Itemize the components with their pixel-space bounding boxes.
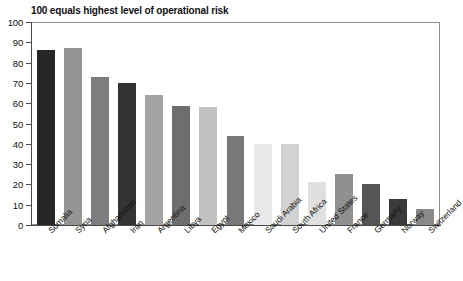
y-axis-tick-label: 100 <box>8 17 23 28</box>
y-axis-tick <box>26 184 31 185</box>
y-axis-tick-label: 60 <box>13 98 23 109</box>
x-axis-labels: SomaliaSyriaAfghanistanIranArgentinaLiby… <box>32 226 439 281</box>
y-axis-tick-label: 20 <box>13 179 23 190</box>
bars-container <box>32 22 439 225</box>
bar-slot <box>172 22 190 225</box>
bar-slot <box>254 22 272 225</box>
bar[interactable] <box>37 50 55 225</box>
y-axis-tick <box>26 124 31 125</box>
bar[interactable] <box>64 48 82 225</box>
y-axis-tick <box>26 225 31 226</box>
bar[interactable] <box>227 136 245 225</box>
bar[interactable] <box>91 77 109 225</box>
bar-slot <box>389 22 407 225</box>
y-axis-tick <box>26 164 31 165</box>
y-axis-tick-label: 50 <box>13 118 23 129</box>
y-axis-tick <box>26 205 31 206</box>
bar-slot <box>64 22 82 225</box>
bar-slot <box>145 22 163 225</box>
y-axis-tick-label: 10 <box>13 199 23 210</box>
bar-slot <box>416 22 434 225</box>
y-axis-tick-label: 30 <box>13 159 23 170</box>
bar[interactable] <box>145 95 163 225</box>
chart-title: 100 equals highest level of operational … <box>31 5 228 16</box>
y-axis-tick <box>26 42 31 43</box>
y-axis-tick <box>26 22 31 23</box>
bar-slot <box>91 22 109 225</box>
y-axis-tick-label: 0 <box>18 220 23 231</box>
y-axis-tick <box>26 144 31 145</box>
y-axis-tick <box>26 103 31 104</box>
bar-slot <box>362 22 380 225</box>
y-axis-tick-label: 70 <box>13 77 23 88</box>
bar[interactable] <box>199 107 217 225</box>
bar-slot <box>37 22 55 225</box>
y-axis-tick-label: 80 <box>13 57 23 68</box>
y-axis-tick-label: 90 <box>13 37 23 48</box>
y-axis-tick-label: 40 <box>13 138 23 149</box>
bar-slot <box>199 22 217 225</box>
y-axis-tick <box>26 63 31 64</box>
y-axis-tick <box>26 83 31 84</box>
bar-slot <box>227 22 245 225</box>
bar-slot <box>308 22 326 225</box>
bar-slot <box>118 22 136 225</box>
